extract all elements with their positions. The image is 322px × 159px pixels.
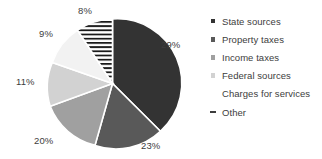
legend-marker-icon xyxy=(208,71,218,81)
legend-item-state-sources[interactable]: State sources xyxy=(208,12,322,30)
legend-label: Other xyxy=(222,107,246,118)
legend-label: Property taxes xyxy=(222,34,284,45)
legend-marker-dash-icon xyxy=(208,107,218,117)
legend-item-income-taxes[interactable]: Income taxes xyxy=(208,48,322,66)
legend-marker-icon xyxy=(208,52,218,62)
legend-marker-icon xyxy=(208,34,218,44)
pie-plot-area: 29% 23% 20% 11% 9% 8% xyxy=(0,0,200,159)
legend-item-other[interactable]: Other xyxy=(208,103,322,121)
legend-label: State sources xyxy=(222,16,281,27)
data-label-federal-sources: 11% xyxy=(16,76,35,87)
legend-item-charges-for-services[interactable]: Charges for services xyxy=(208,85,322,103)
legend-label: Charges for services xyxy=(222,88,310,99)
legend-label: Federal sources xyxy=(222,70,291,81)
data-label-state-sources: 29% xyxy=(161,39,180,50)
legend-item-federal-sources[interactable]: Federal sources xyxy=(208,67,322,85)
data-label-other: 8% xyxy=(78,5,92,16)
data-label-property-taxes: 23% xyxy=(141,140,160,151)
legend-marker-icon xyxy=(208,16,218,26)
data-label-charges-for-services: 9% xyxy=(39,28,53,39)
data-label-income-taxes: 20% xyxy=(34,135,53,146)
pie-chart-figure: 29% 23% 20% 11% 9% 8% State sources Prop… xyxy=(0,0,322,159)
legend-label: Income taxes xyxy=(222,52,279,63)
legend-marker-icon xyxy=(208,89,218,99)
legend: State sources Property taxes Income taxe… xyxy=(208,12,322,121)
legend-item-property-taxes[interactable]: Property taxes xyxy=(208,30,322,48)
